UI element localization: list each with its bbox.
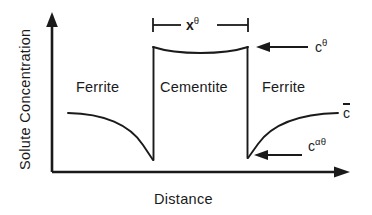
plate-thickness-label: xθ <box>186 16 199 32</box>
overbar-mark <box>343 103 350 105</box>
mean-composition-symbol: c <box>343 105 350 121</box>
cementite-composition-base: c <box>315 39 322 55</box>
profile-curves-group <box>68 47 338 160</box>
mean-composition-base: c <box>343 106 350 120</box>
cementite-composition-superscript: θ <box>322 37 327 48</box>
interface-composition-leader <box>254 150 302 160</box>
cementite-composition-arrowhead <box>256 42 270 52</box>
interface-composition-superscript: αθ <box>315 136 326 147</box>
phase-label-ferrite-left: Ferrite <box>76 80 119 95</box>
interface-composition-base: c <box>308 138 315 154</box>
y-axis-arrowhead <box>46 12 58 27</box>
mean-composition-label: c <box>343 105 350 121</box>
plate-thickness-base: x <box>186 17 194 33</box>
cementite-composition-leader <box>256 42 308 52</box>
interface-composition-arrowhead <box>254 150 268 160</box>
plate-thickness-dimension <box>153 18 248 32</box>
cementite-composition-label: cθ <box>315 38 327 54</box>
phase-label-cementite: Cementite <box>160 80 228 95</box>
precipitate-top-curve <box>153 47 248 53</box>
x-axis-arrowhead <box>334 166 350 177</box>
phase-label-ferrite-right: Ferrite <box>262 80 305 95</box>
y-axis-label: Solute Concentration <box>18 29 33 170</box>
x-axis-label: Distance <box>154 192 213 207</box>
interface-composition-label: cαθ <box>308 137 326 153</box>
left-ferrite-depletion-curve <box>68 113 153 160</box>
plate-thickness-superscript: θ <box>194 15 199 26</box>
concentration-profile-figure: Solute Concentration Distance Ferrite Ce… <box>0 0 372 215</box>
